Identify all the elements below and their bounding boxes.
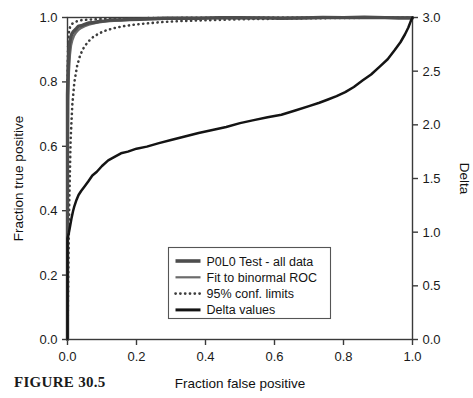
y2-tick-label: 1.0 bbox=[423, 225, 441, 240]
y-tick-label: 0.8 bbox=[39, 74, 57, 89]
y2-axis-title: Delta bbox=[457, 163, 472, 195]
legend-item-label: 95% conf. limits bbox=[207, 287, 295, 301]
legend-item-label: P0L0 Test - all data bbox=[207, 255, 314, 269]
y-tick-label: 0.6 bbox=[39, 139, 57, 154]
roc-chart: 0.00.20.40.60.81.0 0.00.20.40.60.81.0 0.… bbox=[0, 0, 473, 398]
y2-tick-label: 0.0 bbox=[423, 332, 441, 347]
x-tick-label: 0.0 bbox=[58, 349, 76, 364]
figure-root: 0.00.20.40.60.81.0 0.00.20.40.60.81.0 0.… bbox=[0, 0, 473, 398]
x-tick-label: 0.8 bbox=[334, 349, 352, 364]
figure-caption: FIGURE 30.5 bbox=[14, 374, 106, 391]
y2-axis-ticks: 0.00.51.01.52.02.53.0 bbox=[413, 10, 441, 347]
y-tick-label: 1.0 bbox=[39, 10, 57, 25]
x-axis-ticks: 0.00.20.40.60.81.0 bbox=[58, 340, 421, 364]
legend-item-label: Fit to binormal ROC bbox=[207, 271, 317, 285]
legend-item-label: Delta values bbox=[207, 303, 276, 317]
y2-tick-label: 3.0 bbox=[423, 10, 441, 25]
y-axis-title: Fraction true positive bbox=[11, 116, 26, 241]
y2-tick-label: 0.5 bbox=[423, 278, 441, 293]
x-tick-label: 1.0 bbox=[403, 349, 421, 364]
y2-tick-label: 2.5 bbox=[423, 64, 441, 79]
y2-tick-label: 1.5 bbox=[423, 171, 441, 186]
y-tick-label: 0.2 bbox=[39, 268, 57, 283]
y-tick-label: 0.4 bbox=[39, 203, 57, 218]
chart-legend: P0L0 Test - all dataFit to binormal ROC9… bbox=[169, 248, 331, 319]
y-tick-label: 0.0 bbox=[39, 332, 57, 347]
y2-tick-label: 2.0 bbox=[423, 117, 441, 132]
x-axis-title: Fraction false positive bbox=[175, 376, 306, 391]
x-tick-label: 0.6 bbox=[265, 349, 283, 364]
x-tick-label: 0.4 bbox=[196, 349, 214, 364]
y-axis-ticks: 0.00.20.40.60.81.0 bbox=[39, 10, 67, 347]
x-tick-label: 0.2 bbox=[127, 349, 145, 364]
